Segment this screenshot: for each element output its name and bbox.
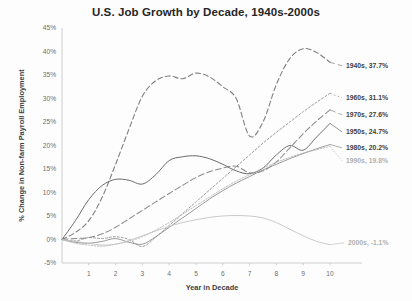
series-leader-1940s xyxy=(330,62,342,65)
series-leader-1950s xyxy=(330,123,342,131)
x-tick-label: 8 xyxy=(275,270,279,277)
series-leader-1980s xyxy=(330,145,342,148)
x-tick-label: 7 xyxy=(248,270,252,277)
y-axis-tick-labels: -5%0%5%10%15%20%25%30%35%40%45% xyxy=(43,24,56,266)
series-line-1960s xyxy=(62,93,330,246)
x-tick-label: 4 xyxy=(167,270,171,277)
series-label-1990s: 1990s, 19.8% xyxy=(346,157,388,165)
series-label-2000s: 2000s, -1.1% xyxy=(348,239,388,247)
x-tick-label: 6 xyxy=(221,270,225,277)
series-label-1960s: 1960s, 31.1% xyxy=(346,94,388,102)
x-tick-label: 1 xyxy=(87,270,91,277)
series-line-1940s xyxy=(62,48,330,239)
series-label-1980s: 1980s, 20.2% xyxy=(346,144,388,152)
x-tick-label: 9 xyxy=(301,270,305,277)
y-tick-label: 35% xyxy=(43,71,56,78)
y-tick-label: -5% xyxy=(44,259,56,266)
series-paths xyxy=(62,48,344,246)
chart-container: U.S. Job Growth by Decade, 1940s-2000s -… xyxy=(0,0,412,301)
y-tick-label: 10% xyxy=(43,189,56,196)
x-tick-label: 3 xyxy=(141,270,145,277)
series-label-1940s: 1940s, 37.7% xyxy=(346,62,388,70)
series-leader-1960s xyxy=(330,93,342,97)
y-tick-label: 15% xyxy=(43,165,56,172)
series-label-1950s: 1950s, 24.7% xyxy=(346,128,388,136)
series-line-2000s xyxy=(62,216,330,246)
y-tick-label: 30% xyxy=(43,95,56,102)
y-tick-label: 0% xyxy=(46,236,56,243)
series-leader-2000s xyxy=(330,243,344,245)
x-tick-label: 2 xyxy=(114,270,118,277)
x-tick-label: 10 xyxy=(326,270,334,277)
x-tick-label: 5 xyxy=(194,270,198,277)
series-end-labels: 1940s, 37.7%1960s, 31.1%1970s, 27.6%1950… xyxy=(346,62,388,247)
y-tick-label: 45% xyxy=(43,24,56,31)
series-label-1970s: 1970s, 27.6% xyxy=(346,111,388,119)
line-chart-svg: -5%0%5%10%15%20%25%30%35%40%45% 12345678… xyxy=(0,0,412,301)
x-axis-title: Year in Decade xyxy=(186,283,239,292)
y-tick-label: 20% xyxy=(43,142,56,149)
series-leader-1990s xyxy=(330,146,342,160)
x-axis-tick-labels: 12345678910 xyxy=(87,263,334,277)
y-tick-label: 25% xyxy=(43,118,56,125)
y-tick-label: 40% xyxy=(43,48,56,55)
y-axis-title: % Change in Non-farm Payroll Employment xyxy=(17,69,26,222)
series-leader-1970s xyxy=(330,110,342,115)
y-tick-label: 5% xyxy=(46,212,56,219)
series-line-1950s xyxy=(62,123,330,239)
